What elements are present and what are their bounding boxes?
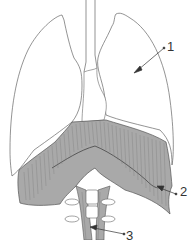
label-3-crus: 3 xyxy=(126,229,133,240)
trachea xyxy=(84,0,97,72)
label-2-diaphragm: 2 xyxy=(180,185,187,198)
label-1-lung: 1 xyxy=(167,40,174,53)
leader-line-3 xyxy=(90,225,125,235)
lungs-diaphragm-diagram xyxy=(0,0,191,240)
